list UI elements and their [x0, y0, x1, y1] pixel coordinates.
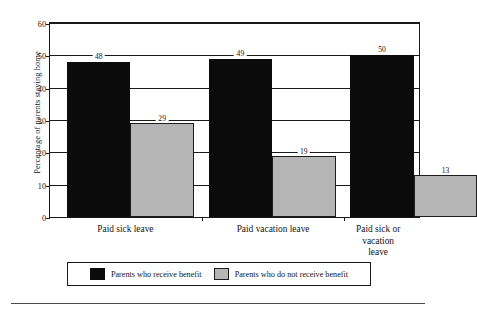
bar-paid-sick-leave-not-receive[interactable]: 29	[130, 123, 193, 217]
chart-legend: Parents who receive benefit Parents who …	[67, 262, 371, 286]
y-tick-label-30: 30	[38, 117, 46, 126]
bar-paid-vacation-leave-receive[interactable]: 49	[209, 59, 272, 217]
category-label-line: Paid sick leave	[49, 224, 202, 236]
x-tick-separator	[344, 217, 345, 221]
y-tick-label-10: 10	[38, 181, 46, 190]
bar-value-label: 13	[439, 167, 452, 175]
bar-value-label: 50	[376, 46, 389, 54]
plot-area: 0 10 20 30 40 50 60 48	[49, 22, 420, 218]
legend-entry-receive-benefit[interactable]: Parents who receive benefit	[90, 268, 202, 280]
category-label-line: Paid sick or vacation	[340, 224, 416, 247]
y-tick-mark-0	[46, 218, 50, 219]
legend-label: Parents who receive benefit	[111, 270, 202, 279]
footer-divider	[11, 303, 425, 304]
gridline-0: 0	[50, 217, 419, 218]
bar-paid-sick-leave-receive[interactable]: 48	[67, 62, 130, 217]
category-label-paid-sick-or-vacation-leave: Paid sick or vacation leave	[340, 224, 416, 259]
x-axis-category-labels: Paid sick leave Paid vacation leave Paid…	[49, 224, 420, 264]
bar-value-label: 48	[92, 53, 105, 61]
bar-value-label: 29	[156, 115, 169, 123]
y-tick-label-50: 50	[38, 52, 46, 61]
category-label-paid-sick-leave: Paid sick leave	[49, 224, 202, 236]
legend-swatch-gray-icon	[214, 268, 229, 280]
bar-value-label: 49	[234, 50, 247, 58]
legend-label: Parents who do not receive benefit	[235, 270, 348, 279]
y-tick-label-60: 60	[38, 20, 46, 29]
bar-paid-sick-or-vacation-leave-receive[interactable]: 50	[350, 55, 413, 217]
y-tick-label-40: 40	[38, 84, 46, 93]
x-tick-separator	[202, 217, 203, 221]
bars-layer: 48 29 49 19 50 13	[50, 23, 419, 217]
legend-swatch-black-icon	[90, 268, 105, 280]
category-label-paid-vacation-leave: Paid vacation leave	[202, 224, 344, 236]
bar-value-label: 19	[298, 148, 311, 156]
category-label-line: leave	[340, 247, 416, 259]
bar-paid-sick-or-vacation-leave-not-receive[interactable]: 13	[414, 175, 477, 217]
category-label-line: Paid vacation leave	[202, 224, 344, 236]
legend-entry-not-receive-benefit[interactable]: Parents who do not receive benefit	[214, 268, 348, 280]
y-tick-label-0: 0	[42, 214, 46, 223]
bar-paid-vacation-leave-not-receive[interactable]: 19	[272, 156, 335, 217]
y-tick-label-20: 20	[38, 149, 46, 158]
